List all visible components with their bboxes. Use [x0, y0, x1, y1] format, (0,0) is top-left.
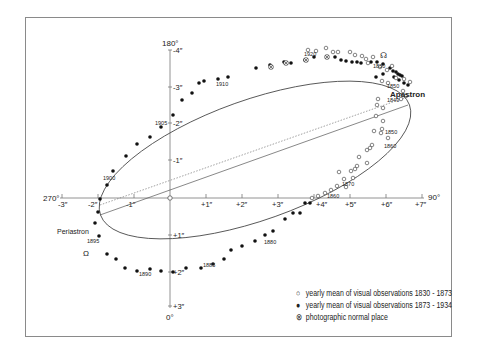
x-tick-label: +5″: [345, 200, 357, 209]
x-ticks: [62, 194, 422, 198]
x-tick-label: +3″: [272, 200, 284, 209]
epoch-label: 1880: [264, 239, 276, 245]
x-tick-label: +7″: [415, 200, 427, 209]
y-tick-label: -1″: [173, 156, 183, 165]
epoch-label: 1895: [87, 238, 99, 244]
descending-node-symbol: Ω: [83, 249, 89, 258]
epoch-label: 1850: [387, 83, 399, 89]
legend-label: photographic normal place: [306, 312, 388, 322]
open-observations: [306, 46, 412, 200]
epoch-label: 1830: [373, 63, 385, 69]
epoch-label: 1870: [342, 181, 354, 187]
periastron-label: Periastron: [57, 228, 89, 235]
pa-0-label: 0°: [166, 313, 174, 322]
orbit-diagram: -3″ -2″ -1″ +1″ +2″ +3″ +4″ +5″ +6″ +7″ …: [0, 0, 477, 351]
legend-label: yearly mean of visual observations 1873 …: [306, 300, 452, 310]
pa-180-label: 180°: [162, 39, 179, 48]
x-tick-label: +1″: [201, 200, 213, 209]
x-tick-label: -2″: [88, 200, 98, 209]
epoch-label: 1860: [384, 143, 396, 149]
y-tick-label: +3″: [173, 302, 185, 311]
epoch-label: 1860: [327, 193, 339, 199]
circled-x-icon: ⊗: [296, 312, 306, 322]
filled-circle-icon: ●: [296, 300, 306, 310]
legend-item-photographic: ⊗photographic normal place: [296, 312, 388, 322]
epoch-label: 1850: [385, 129, 397, 135]
epoch-label: 1910: [216, 81, 228, 87]
pa-90-label: 90°: [428, 193, 440, 202]
photographic-normal-places: [269, 55, 330, 70]
apsidal-line: [100, 105, 408, 215]
epoch-label: 1900: [103, 175, 115, 181]
y-tick-label: +2″: [173, 268, 185, 277]
x-tick-label: +6″: [381, 200, 393, 209]
pa-270-label: 270°: [43, 194, 60, 203]
filled-observations: [93, 55, 410, 274]
epoch-label: 1890: [139, 271, 151, 277]
legend-item-filled: ●yearly mean of visual observations 1873…: [296, 300, 452, 310]
x-tick-label: +4″: [316, 200, 328, 209]
legend-item-open: ○yearly mean of visual observations 1830…: [296, 288, 452, 298]
x-tick-label: +2″: [236, 200, 248, 209]
legend-label: yearly mean of visual observations 1830 …: [306, 288, 452, 298]
line-of-nodes: [100, 96, 410, 205]
open-circle-icon: ○: [296, 288, 306, 298]
x-tick-label: -1″: [126, 200, 136, 209]
epoch-label: 1920: [304, 51, 316, 57]
ascending-node-symbol: ☊: [380, 51, 387, 60]
epoch-label: 1905: [155, 120, 167, 126]
primary-star: [168, 196, 172, 200]
x-tick-labels: -3″ -2″ -1″ +1″ +2″ +3″ +4″ +5″ +6″ +7″: [58, 200, 427, 209]
epoch-label: 1885: [203, 262, 215, 268]
y-tick-label: -3″: [173, 83, 183, 92]
apastron-label: Apastron: [390, 90, 425, 99]
